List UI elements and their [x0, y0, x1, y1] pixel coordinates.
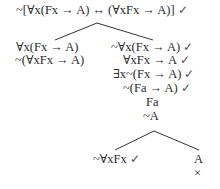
closed-branch-mark: × — [194, 166, 201, 181]
right-formula-5-text: Fa — [146, 95, 159, 109]
right-formula-2: ∀xFx → A✓ — [123, 53, 190, 68]
check-icon: ✓ — [184, 67, 194, 81]
right-formula-5: Fa — [146, 95, 159, 110]
root-formula: ~[∀x(Fx → A) ↔ (∀xFx → A)]✓ — [16, 3, 188, 18]
root-formula-text: ~[∀x(Fx → A) ↔ (∀xFx → A)] — [16, 3, 175, 17]
branch-line-bottom-left — [115, 131, 154, 150]
sub-right-formula-text: A — [194, 152, 203, 166]
check-icon: ✓ — [178, 3, 188, 17]
left-formula-2-text: ~(∀xFx → A) — [15, 53, 84, 67]
sub-left-formula-text: ~∀xFx — [93, 152, 127, 166]
branch-line-bottom-right — [154, 131, 199, 150]
cross-icon: × — [194, 166, 201, 180]
branch-line-top-left — [55, 23, 97, 40]
right-formula-3-text: ∃x~(Fx → A) — [113, 67, 181, 81]
right-formula-6-text: ~A — [143, 109, 159, 123]
right-formula-6: ~A — [143, 109, 159, 124]
sub-left-formula: ~∀xFx✓ — [93, 152, 140, 167]
right-formula-4: ~(Fa → A)✓ — [123, 81, 191, 96]
check-icon: ✓ — [180, 53, 190, 67]
check-icon: ✓ — [183, 40, 193, 54]
right-formula-4-text: ~(Fa → A) — [123, 81, 178, 95]
check-icon: ✓ — [181, 81, 191, 95]
left-formula-1-text: ∀x(Fx → A) — [16, 40, 78, 54]
check-icon: ✓ — [130, 152, 140, 166]
sub-right-formula: A — [194, 152, 203, 167]
right-formula-3: ∃x~(Fx → A)✓ — [113, 67, 194, 82]
branch-line-top-right — [97, 23, 153, 40]
left-formula-2: ~(∀xFx → A) — [15, 53, 84, 68]
right-formula-2-text: ∀xFx → A — [123, 53, 177, 67]
right-formula-1-text: ~∀x(Fx → A) — [111, 40, 180, 54]
